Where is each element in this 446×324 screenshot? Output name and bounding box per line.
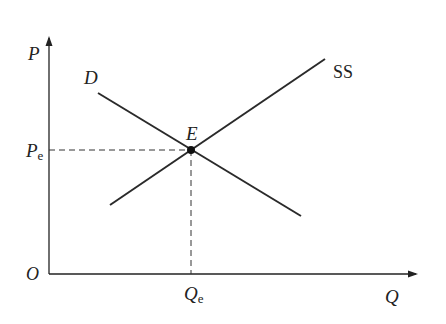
supply-curve (110, 59, 325, 205)
supply-label: SS (333, 62, 353, 82)
y-axis-label: P (27, 43, 40, 64)
equilibrium-point (187, 146, 195, 154)
quantity-equilibrium-label: Qe (184, 283, 204, 306)
x-axis-label: Q (385, 286, 399, 307)
price-equilibrium-label: Pe (25, 140, 44, 163)
demand-curve (98, 93, 301, 216)
supply-demand-diagram: P Q O D SS E Pe Qe (0, 0, 446, 324)
equilibrium-label: E (185, 123, 198, 144)
demand-label: D (83, 67, 98, 88)
origin-label: O (26, 264, 39, 284)
